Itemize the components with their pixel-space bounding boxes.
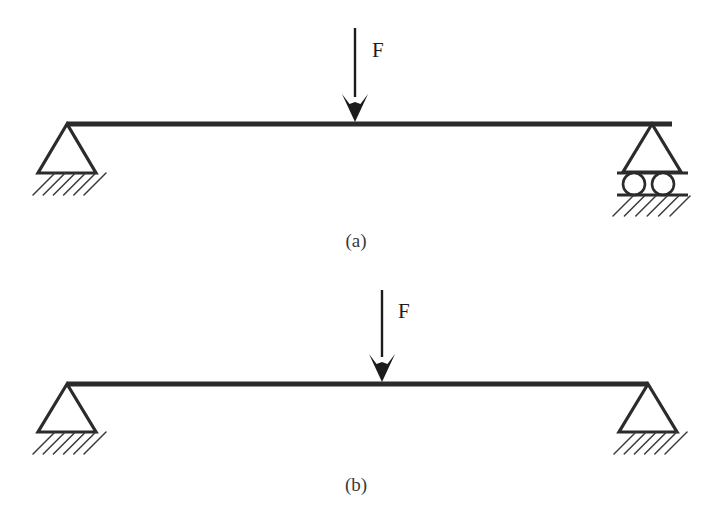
support-triangle — [623, 124, 681, 172]
pin-support-left-b-hatch-stroke — [33, 432, 55, 454]
pin-support-left-b-hatch-stroke — [53, 432, 75, 454]
pin-support-left-a-hatch-stroke — [33, 173, 55, 195]
force-arrow-b — [369, 290, 395, 382]
roller-support-right-a-hatch-stroke — [636, 196, 656, 216]
roller-support-right-a-hatch-stroke — [670, 196, 690, 216]
pin-support-left-b-hatch-stroke — [84, 432, 106, 454]
force-arrow-a — [342, 28, 368, 122]
roller-circle-1 — [623, 173, 645, 195]
pin-support-left-a — [33, 124, 106, 195]
pin-support-right-b-hatch-stroke — [634, 432, 656, 454]
roller-support-right-a-hatch-stroke — [659, 196, 679, 216]
support-triangle — [619, 384, 677, 432]
roller-circle-2 — [652, 173, 674, 195]
pin-support-right-b-hatch-stroke — [614, 432, 636, 454]
force-label-b: F — [398, 299, 410, 323]
roller-support-right-a — [613, 124, 690, 216]
pin-support-left-b-hatch-stroke — [64, 432, 86, 454]
panel-b: F(b) — [33, 290, 687, 496]
support-triangle — [38, 124, 96, 173]
pin-support-left-b — [33, 384, 106, 454]
pin-support-left-b-hatch-stroke — [43, 432, 65, 454]
pin-support-right-b — [614, 384, 687, 454]
pin-support-right-b-hatch-stroke — [645, 432, 667, 454]
roller-support-right-a-hatch-stroke — [613, 196, 633, 216]
pin-support-left-b-hatch-stroke — [74, 432, 96, 454]
beam-diagram-figure: F(a) F(b) — [0, 0, 713, 516]
panel-caption-a: (a) — [345, 230, 366, 252]
diagram-canvas: F(a) F(b) — [0, 0, 713, 516]
force-arrow-head — [369, 354, 395, 382]
pin-support-right-b-hatch-stroke — [655, 432, 677, 454]
support-triangle — [38, 384, 96, 432]
pin-support-left-a-hatch-stroke — [43, 173, 65, 195]
pin-support-left-a-hatch-stroke — [84, 173, 106, 195]
pin-support-left-a-hatch-stroke — [74, 173, 96, 195]
force-arrow-head — [342, 94, 368, 122]
roller-support-right-a-hatch-stroke — [647, 196, 667, 216]
panel-caption-b: (b) — [345, 474, 367, 496]
roller-support-right-a-hatch-stroke — [624, 196, 644, 216]
pin-support-left-a-hatch-stroke — [53, 173, 75, 195]
panel-a: F(a) — [33, 28, 690, 252]
pin-support-left-a-hatch-stroke — [64, 173, 86, 195]
pin-support-right-b-hatch-stroke — [665, 432, 687, 454]
pin-support-right-b-hatch-stroke — [624, 432, 646, 454]
force-label-a: F — [372, 38, 384, 62]
